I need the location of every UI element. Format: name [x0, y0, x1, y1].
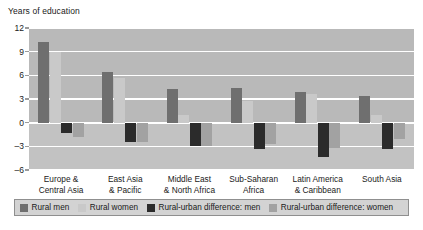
bar — [242, 101, 253, 122]
y-tick-mark — [25, 27, 29, 28]
x-category-label-line2: Africa — [222, 185, 286, 196]
legend-swatch — [269, 204, 277, 212]
bar — [231, 88, 242, 123]
bar — [50, 52, 61, 123]
legend-item: Rural-urban difference: men — [147, 203, 260, 212]
bar-group — [350, 28, 414, 170]
legend-item: Rural-urban difference: women — [269, 203, 393, 212]
bar — [254, 123, 265, 150]
x-category-label-line2: & Caribbean — [286, 185, 350, 196]
y-tick-label: 0 — [19, 118, 24, 128]
bar — [167, 89, 178, 123]
bar-group — [29, 28, 93, 170]
y-tick-mark — [25, 122, 29, 123]
y-tick-label: 9 — [19, 47, 24, 57]
x-category-label-line1: Europe & — [44, 174, 79, 184]
bar — [306, 94, 317, 122]
x-category-label: Sub-SaharanAfrica — [222, 174, 286, 195]
bar — [382, 123, 393, 149]
legend-item: Rural men — [20, 203, 69, 212]
x-category-label: Middle East& North Africa — [157, 174, 221, 195]
chart-legend: Rural menRural womenRural-urban differen… — [14, 199, 409, 216]
bar — [125, 123, 136, 143]
y-tick-mark — [25, 169, 29, 170]
bar-group — [286, 28, 350, 170]
y-tick-label: –6 — [15, 165, 24, 175]
bar — [73, 123, 84, 137]
bar — [137, 123, 148, 143]
legend-label: Rural women — [90, 203, 138, 212]
x-category-label-line1: Sub-Saharan — [229, 174, 278, 184]
bar-group — [93, 28, 157, 170]
x-category-label-line1: Latin America — [293, 174, 343, 184]
y-axis-title: Years of education — [8, 6, 80, 16]
legend-item: Rural women — [78, 203, 138, 212]
bar — [38, 42, 49, 122]
legend-label: Rural men — [32, 203, 70, 212]
x-category-label: Latin America& Caribbean — [286, 174, 350, 195]
y-tick-mark — [25, 51, 29, 52]
bar — [265, 123, 276, 144]
bar — [201, 123, 212, 147]
x-category-label-line1: Middle East — [168, 174, 211, 184]
x-category-label: Europe &Central Asia — [29, 174, 93, 195]
bar — [329, 123, 340, 148]
x-category-label-line1: South Asia — [362, 174, 402, 184]
bar — [371, 115, 382, 123]
x-category-label-line2: & North Africa — [157, 185, 221, 196]
legend-swatch — [20, 204, 28, 212]
y-tick-mark — [25, 146, 29, 147]
y-tick-mark — [25, 98, 29, 99]
x-category-label-line2: & Pacific — [93, 185, 157, 196]
x-category-label-line2: Central Asia — [29, 185, 93, 196]
legend-label: Rural-urban difference: men — [159, 203, 261, 212]
bar — [114, 78, 125, 122]
bar-group — [222, 28, 286, 170]
bar-group — [157, 28, 221, 170]
bar — [318, 123, 329, 157]
legend-swatch — [147, 204, 155, 212]
x-category-label: East Asia& Pacific — [93, 174, 157, 195]
y-tick-label: –3 — [15, 141, 24, 151]
chart-figure: Years of education Europe &Central AsiaE… — [0, 0, 423, 230]
y-tick-label: 12 — [15, 23, 24, 33]
bar — [102, 72, 113, 122]
bar — [359, 96, 370, 123]
bar — [178, 115, 189, 123]
legend-label: Rural-urban difference: women — [281, 203, 393, 212]
y-tick-label: 3 — [19, 94, 24, 104]
y-tick-label: 6 — [19, 70, 24, 80]
bar — [394, 123, 405, 140]
bar — [295, 92, 306, 123]
y-tick-mark — [25, 75, 29, 76]
bar — [61, 123, 72, 133]
x-category-label: South Asia — [350, 174, 414, 185]
x-category-label-line1: East Asia — [108, 174, 143, 184]
bar — [190, 123, 201, 147]
legend-swatch — [78, 204, 86, 212]
plot-area — [29, 28, 414, 170]
